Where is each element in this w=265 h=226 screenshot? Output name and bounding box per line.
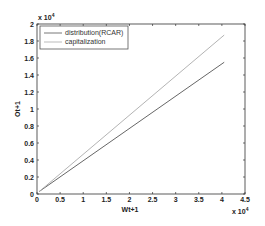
x-tick-label: 1.5: [101, 196, 111, 203]
y-tick-label: 0.4: [24, 157, 34, 164]
plot-frame: [37, 24, 245, 194]
x-tick-label: 1: [81, 196, 85, 203]
x-tick-label: 0: [35, 196, 39, 203]
legend: distribution(RCAR) capitalization: [40, 26, 128, 49]
x-exponent-label: x 104: [232, 206, 249, 215]
series-line-1: [39, 35, 224, 191]
y-axis-label: Ot+1: [14, 101, 21, 117]
y-tick-label: 1.6: [24, 55, 34, 62]
plot-series: [39, 35, 224, 191]
y-exponent-label: x 104: [38, 12, 55, 21]
y-tick-label: 0.6: [24, 140, 34, 147]
series-line-0: [39, 62, 224, 191]
line-chart: 00.511.522.533.544.500.20.40.60.811.21.4…: [0, 0, 265, 226]
x-tick-label: 2.5: [148, 196, 158, 203]
x-axis-label: Wt+1: [122, 206, 139, 213]
y-tick-label: 2: [30, 21, 34, 28]
y-tick-label: 1: [30, 106, 34, 113]
x-tick-label: 3.5: [194, 196, 204, 203]
y-tick-label: 0.8: [24, 123, 34, 130]
y-tick-label: 1.8: [24, 38, 34, 45]
x-tick-label: 3: [174, 196, 178, 203]
y-tick-label: 0.2: [24, 174, 34, 181]
x-tick-label: 4.5: [240, 196, 250, 203]
x-tick-label: 0.5: [55, 196, 65, 203]
legend-label-distribution: distribution(RCAR): [65, 29, 123, 37]
legend-label-capitalization: capitalization: [65, 38, 106, 46]
x-tick-label: 4: [220, 196, 224, 203]
y-tick-label: 1.4: [24, 72, 34, 79]
y-tick-label: 1.2: [24, 89, 34, 96]
x-tick-label: 2: [127, 196, 131, 203]
y-tick-label: 0: [30, 191, 34, 198]
